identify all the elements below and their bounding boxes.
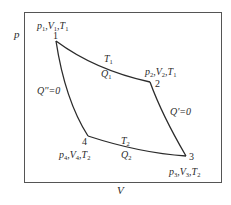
top-process-temperature-label: T1 [104,54,113,64]
right-adiabat-heat-label: Q'=0 [170,107,191,117]
adiabat-left-curve [56,41,88,136]
adiabat-right-curve [150,82,186,156]
point-1-number: 1 [53,31,58,41]
top-process-heat-label: Q1 [101,69,111,79]
point-2-state-label: p2,V2,T1 [145,67,176,77]
point-3-state-label: p3,V3,T2 [169,167,200,177]
bottom-process-heat-label: Q2 [121,150,131,160]
x-axis-label: V [117,184,124,196]
y-axis-label: p [14,28,20,40]
left-adiabat-heat-label: Q''=0 [37,86,60,96]
point-4-state-label: p4,V4,T2 [59,150,90,160]
point-3-number: 3 [189,152,194,162]
point-2-number: 2 [155,79,160,89]
point-4-number: 4 [82,137,87,147]
carnot-cycle-pv-diagram: p V p1,V1,T1 1 p2,V2,T1 2 3 p3,V3,T2 4 p… [0,0,231,205]
isotherm-t2-curve [88,136,186,156]
bottom-process-temperature-label: T2 [121,136,130,146]
